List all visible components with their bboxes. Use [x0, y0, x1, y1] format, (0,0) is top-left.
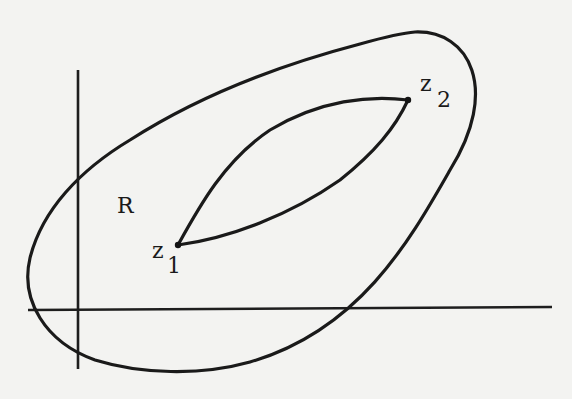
- point-z1-marker: [175, 242, 181, 248]
- point-z2-subscript: 2: [437, 87, 451, 112]
- point-z1-label: z: [152, 238, 164, 263]
- outer-contour: [28, 32, 476, 372]
- lower-path-z1-z2: [178, 100, 408, 245]
- point-z1-subscript: 1: [167, 253, 181, 278]
- upper-path-z1-z2: [178, 98, 408, 245]
- figure-canvas: R z 1 z 2: [0, 0, 572, 399]
- region-label-R: R: [117, 193, 135, 218]
- point-z2-label: z: [420, 71, 432, 96]
- point-z2-marker: [405, 97, 411, 103]
- horizontal-axis: [28, 307, 552, 310]
- contour-diagram: R z 1 z 2: [0, 0, 572, 399]
